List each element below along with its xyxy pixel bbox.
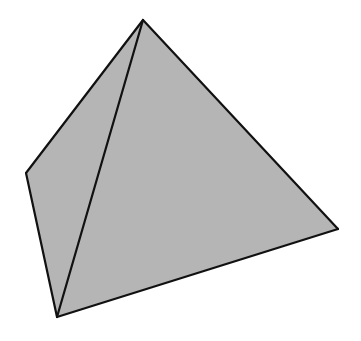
tetrahedron-diagram xyxy=(0,0,361,341)
diagram-canvas xyxy=(0,0,361,341)
